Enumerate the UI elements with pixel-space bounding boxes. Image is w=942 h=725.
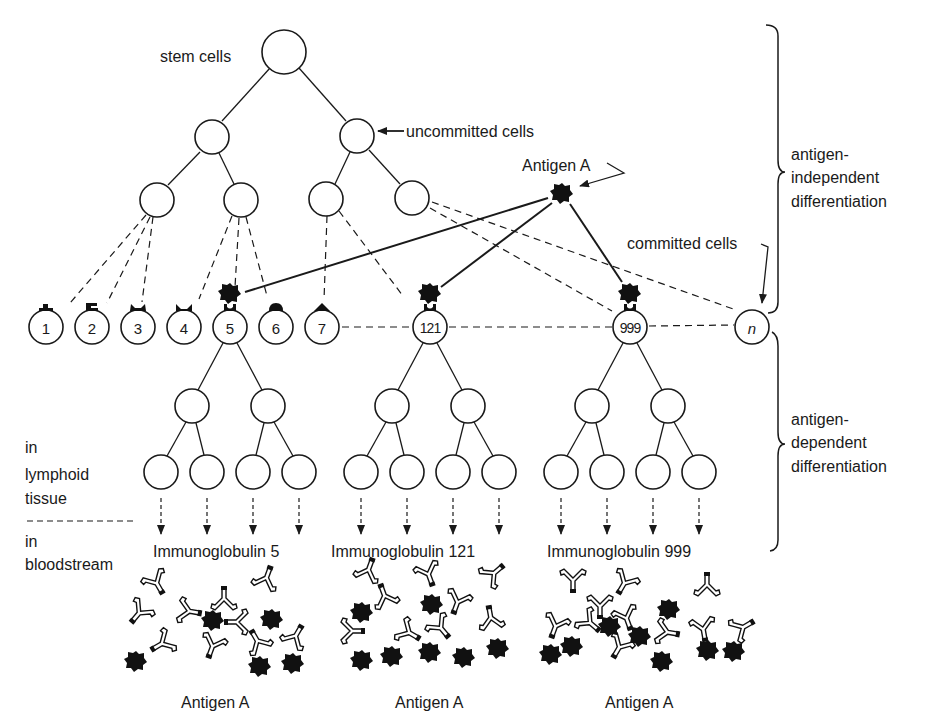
- committed-cell: 4: [167, 304, 201, 344]
- uncommitted-cell: [395, 181, 429, 215]
- antigen-icon: [657, 599, 680, 620]
- antigen-icon: [380, 646, 403, 667]
- plasma-cell: [144, 455, 178, 489]
- plasma-cell: [590, 455, 624, 489]
- uncommitted-cell: [309, 182, 343, 216]
- immunoglobulin-label: Immunoglobulin 5: [153, 543, 279, 560]
- committed-cell: 999: [613, 283, 647, 344]
- receptor-icon: [86, 303, 98, 311]
- bound-antigen-icon: [418, 283, 441, 304]
- plasma-cell: [436, 455, 470, 489]
- antibody-antigen-cluster: [539, 567, 761, 672]
- clone-cell: [451, 389, 485, 423]
- antibody-icon: [140, 567, 175, 601]
- antigen-icon: [486, 638, 509, 659]
- dependent-label-1: antigen-: [791, 411, 849, 428]
- antibody-icon: [476, 603, 506, 631]
- plasma-cell: [190, 455, 224, 489]
- antibody-icon: [654, 617, 682, 647]
- plasma-cell: [636, 455, 670, 489]
- committed-cell: 121: [413, 283, 447, 344]
- committed-cells-label: committed cells: [627, 235, 737, 252]
- antigen-icon: [281, 653, 304, 674]
- bloodstream-label-2: bloodstream: [25, 556, 113, 573]
- committed-cell: 5: [213, 283, 247, 344]
- antigen-icon: [248, 656, 271, 677]
- clone: Immunoglobulin 999Antigen A: [539, 343, 761, 711]
- antigen-icon: [260, 609, 283, 630]
- antigen-icon: [722, 641, 745, 662]
- uncommitted-cell: [224, 183, 258, 217]
- lymphoid-label-2: lymphoid: [25, 466, 89, 483]
- antigen-icon: [124, 651, 147, 672]
- antigen-icon: [452, 647, 475, 668]
- bloodstream-label-1: in: [25, 533, 37, 550]
- receptor-icon: [624, 304, 636, 311]
- independent-label-3: differentiation: [791, 193, 887, 210]
- committed-cell: 3: [121, 304, 155, 344]
- antigen-icon: [350, 602, 373, 623]
- plasma-cell: [544, 455, 578, 489]
- antigen-icon: [350, 650, 373, 671]
- antigen-icon: [418, 642, 441, 663]
- committed-arrow: [761, 244, 768, 303]
- receptor-icon: [424, 304, 436, 311]
- dependent-label-3: differentiation: [791, 458, 887, 475]
- committed-cell: 7: [305, 303, 339, 344]
- uncommitted-cell: [140, 183, 174, 217]
- cell-number: 999: [620, 320, 642, 336]
- antibody-icon: [727, 610, 761, 645]
- antigen-a-label: Antigen A: [395, 694, 464, 711]
- antigen-selection-lines: [245, 198, 622, 292]
- dependent-label-2: dependent: [791, 434, 867, 451]
- clone-cell: [175, 389, 209, 423]
- cell-number: 4: [180, 320, 188, 337]
- lymphoid-label-1: in: [25, 439, 37, 456]
- receptor-icon: [39, 304, 53, 311]
- cell-number: 6: [272, 320, 280, 337]
- committed-cells-row: 1234567121999n: [29, 283, 769, 344]
- antigen-a-label: Antigen A: [522, 157, 591, 174]
- clone: Immunoglobulin 121Antigen A: [331, 343, 516, 711]
- antibody-icon: [560, 569, 586, 593]
- antibody-icon: [412, 559, 445, 590]
- committed-cell: 2: [75, 303, 109, 344]
- antigen-icon: [560, 636, 583, 657]
- antibody-icon: [121, 596, 156, 631]
- antibody-icon: [196, 631, 229, 662]
- lineage-dashed-lines: [70, 202, 736, 327]
- antigen-a-label: Antigen A: [605, 694, 674, 711]
- antibody-icon: [607, 567, 642, 601]
- clone: Immunoglobulin 5Antigen A: [121, 343, 316, 711]
- clone-cell: [375, 389, 409, 423]
- antigen-a-top: Antigen A: [522, 157, 624, 204]
- antigen-a-label: Antigen A: [181, 694, 250, 711]
- independent-label-1: antigen-: [791, 146, 849, 163]
- antibody-icon: [393, 616, 427, 651]
- antibody-icon: [144, 627, 178, 662]
- antigen-icon: [539, 644, 562, 665]
- clone-cell: [575, 389, 609, 423]
- b-cell-differentiation-diagram: Antigen A 1234567121999n Immunoglobulin …: [0, 0, 942, 725]
- plasma-cell: [344, 455, 378, 489]
- cell-number: 5: [226, 320, 234, 337]
- clones: Immunoglobulin 5Antigen AImmunoglobulin …: [121, 343, 761, 711]
- cell-number: 7: [318, 320, 326, 337]
- plasma-cell: [682, 455, 716, 489]
- uncommitted-cell: [340, 119, 374, 153]
- bound-antigen-icon: [218, 283, 241, 304]
- immunoglobulin-label: Immunoglobulin 121: [331, 543, 475, 560]
- bound-antigen-icon: [618, 283, 641, 304]
- antibody-icon: [279, 618, 314, 652]
- cell-number: 121: [420, 320, 442, 336]
- antibody-antigen-cluster: [121, 561, 313, 677]
- plasma-cell: [482, 455, 516, 489]
- antigen-icon: [696, 640, 719, 661]
- committed-cell: 6: [259, 303, 293, 344]
- cell-number: 3: [134, 320, 142, 337]
- uncommitted-cell: [195, 120, 229, 154]
- immunoglobulin-label: Immunoglobulin 999: [547, 543, 691, 560]
- clone-cell: [651, 389, 685, 423]
- committed-cell: n: [735, 310, 769, 344]
- cell-number: 1: [42, 320, 50, 337]
